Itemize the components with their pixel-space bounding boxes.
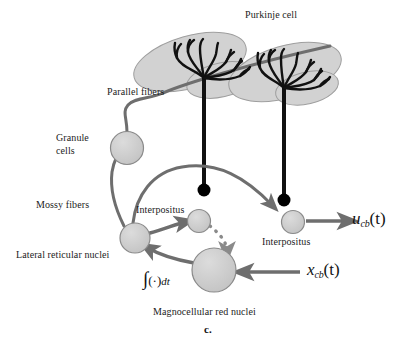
input-variable: x — [307, 260, 315, 279]
label-parallel-fibers: Parallel fibers — [107, 86, 164, 98]
magnocellular-red-nucleus-node[interactable] — [192, 248, 236, 292]
integral-differential: dt — [161, 275, 170, 287]
input-argument: (t) — [324, 260, 340, 279]
figure-panel-c: Purkinje cell Parallel fibers Granule ce… — [0, 0, 412, 344]
interpositus-right-node[interactable] — [282, 211, 305, 234]
label-interpositus-right: Interpositus — [262, 236, 310, 248]
lateral-reticular-nucleus-node[interactable] — [120, 223, 150, 253]
cerebellum-circuit-diagram — [0, 0, 412, 344]
purkinje-terminal-right — [278, 194, 291, 207]
purkinje-terminal-left — [198, 184, 211, 197]
label-granule-cells-line1: Granule — [56, 132, 89, 144]
output-argument: (t) — [370, 209, 386, 228]
integral-body: (·) — [148, 273, 161, 288]
label-mossy-fibers: Mossy fibers — [36, 199, 89, 211]
interpositus-left-node[interactable] — [188, 210, 211, 233]
integrator-expression: ∫(·)dt — [143, 268, 170, 290]
output-subscript: cb — [361, 218, 370, 229]
label-interpositus-left: Interpositus — [136, 204, 184, 216]
output-variable: u — [352, 209, 361, 228]
input-subscript: cb — [315, 269, 324, 280]
panel-letter: c. — [204, 323, 212, 335]
red-nucleus-to-lrn-arrow — [148, 248, 194, 263]
label-purkinje-cell: Purkinje cell — [245, 9, 297, 21]
label-magnocellular-red-nuclei: Magnocellular red nuclei — [153, 306, 256, 318]
output-signal-expression: ucb(t) — [352, 209, 386, 229]
input-signal-expression: xcb(t) — [307, 260, 340, 280]
label-lateral-reticular-nuclei: Lateral reticular nuclei — [16, 249, 109, 261]
lrn-to-interpositus-left-arrow — [150, 222, 185, 233]
granule-cell-node[interactable] — [111, 132, 144, 165]
label-granule-cells-line2: cells — [56, 145, 75, 157]
